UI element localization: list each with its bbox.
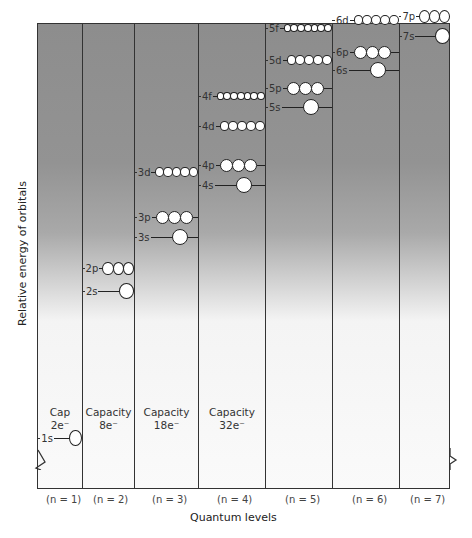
energy-line — [188, 237, 198, 238]
capacity-title: Cap — [40, 406, 80, 419]
orbital-circle-icon — [322, 55, 332, 65]
capacity-label-n2: Capacity 8e⁻ — [83, 406, 134, 432]
orbital-3d: 3d — [134, 162, 198, 182]
y-axis-title: Relative energy of orbitals — [16, 181, 29, 326]
orbital-circle-icon — [236, 177, 252, 193]
capacity-title: Capacity — [135, 406, 198, 419]
orbital-label: 3d — [138, 167, 151, 178]
tick-mark — [198, 126, 201, 127]
capacity-title: Capacity — [83, 406, 134, 419]
capacity-title: Capacity — [199, 406, 265, 419]
orbital-label: 2p — [86, 263, 99, 274]
orbital-circle-icon — [324, 24, 332, 32]
energy-line — [391, 52, 399, 53]
orbital-5d: 5d — [265, 50, 332, 70]
orbital-4p: 4p — [198, 155, 265, 175]
capacity-value: 18e⁻ — [135, 419, 198, 432]
energy-line — [386, 70, 399, 71]
orbital-circle-icon — [172, 229, 188, 245]
orbital-label: 4s — [202, 180, 214, 191]
orbital-circle-icon — [102, 262, 113, 275]
energy-line — [252, 185, 265, 186]
orbital-circle-icon — [244, 159, 257, 172]
orbital-5p: 5p — [265, 78, 332, 98]
orbital-label: 5d — [269, 55, 282, 66]
tick-mark — [134, 237, 137, 238]
level-label-n4: (n = 4) — [217, 494, 252, 505]
energy-diagram: Cap 2e⁻ Capacity 8e⁻ Capacity 18e⁻ Capac… — [37, 23, 450, 489]
axis-break-right-icon — [446, 448, 460, 470]
orbital-label: 4f — [202, 91, 212, 102]
tick-mark — [265, 60, 268, 61]
tick-mark — [198, 165, 201, 166]
tick-mark — [134, 217, 137, 218]
capacity-label-n3: Capacity 18e⁻ — [135, 406, 198, 432]
orbital-circle-icon — [311, 82, 324, 95]
orbital-label: 5s — [269, 102, 281, 113]
tick-mark — [198, 96, 201, 97]
orbital-circle-icon — [119, 283, 134, 299]
orbital-circle-icon — [370, 62, 386, 78]
orbital-label: 3s — [138, 232, 150, 243]
tick-mark — [82, 291, 85, 292]
orbital-circle-icon — [255, 121, 265, 131]
orbital-7p: 7p — [399, 6, 450, 26]
orbital-label: 6p — [336, 47, 349, 58]
tick-mark — [134, 172, 137, 173]
level-label-n2: (n = 2) — [93, 494, 128, 505]
orbital-label: 2s — [86, 286, 98, 297]
orbital-circle-icon — [168, 211, 181, 224]
capacity-value: 32e⁻ — [199, 419, 265, 432]
orbital-circle-icon — [439, 10, 450, 23]
level-divider — [399, 24, 400, 488]
orbital-4f: 4f — [198, 86, 265, 106]
orbital-circle-icon — [287, 82, 300, 95]
tick-mark — [399, 36, 402, 37]
orbital-2s: 2s — [82, 281, 134, 301]
orbital-label: 5p — [269, 83, 282, 94]
level-divider — [332, 24, 333, 488]
energy-line — [319, 107, 332, 108]
energy-line — [282, 107, 304, 108]
orbital-circle-icon — [366, 46, 379, 59]
orbital-3s: 3s — [134, 227, 198, 247]
energy-line — [193, 217, 198, 218]
orbital-4d: 4d — [198, 116, 265, 136]
orbital-circle-icon — [232, 159, 245, 172]
orbital-5s: 5s — [265, 97, 332, 117]
orbital-circle-icon — [69, 430, 82, 446]
orbital-circle-icon — [435, 28, 450, 44]
tick-mark — [332, 52, 335, 53]
orbital-circle-icon — [189, 167, 198, 177]
energy-line — [98, 291, 119, 292]
energy-line — [415, 36, 436, 37]
orbital-circle-icon — [180, 211, 193, 224]
level-label-n5: (n = 5) — [285, 494, 320, 505]
orbital-label: 7p — [402, 11, 415, 22]
orbital-circle-icon — [299, 82, 312, 95]
orbital-label: 7s — [403, 31, 415, 42]
orbital-7s: 7s — [399, 26, 450, 46]
orbital-5f: 5f — [265, 18, 332, 38]
orbital-circle-icon — [123, 262, 134, 275]
energy-line — [349, 70, 371, 71]
orbital-6p: 6p — [332, 42, 399, 62]
level-label-n7: (n = 7) — [410, 494, 445, 505]
orbital-circle-icon — [156, 211, 169, 224]
energy-line — [54, 438, 71, 439]
level-label-n3: (n = 3) — [152, 494, 187, 505]
energy-line — [257, 165, 265, 166]
tick-mark — [399, 16, 401, 17]
level-label-n6: (n = 6) — [352, 494, 387, 505]
energy-line — [151, 237, 173, 238]
axis-break-left-icon — [33, 448, 47, 470]
orbital-4s: 4s — [198, 175, 265, 195]
orbital-3p: 3p — [134, 207, 198, 227]
capacity-label-n4: Capacity 32e⁻ — [199, 406, 265, 432]
orbital-2p: 2p — [82, 258, 134, 278]
orbital-label: 6d — [336, 15, 349, 26]
level-label-n1: (n = 1) — [46, 494, 81, 505]
energy-line — [215, 185, 237, 186]
tick-mark — [332, 20, 335, 21]
tick-mark — [265, 88, 268, 89]
